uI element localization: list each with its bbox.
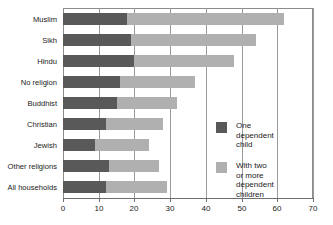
bar-segment-one-dependent-child	[63, 139, 95, 151]
bar-segment-one-dependent-child	[63, 118, 106, 130]
bar-segment-two-or-more-children	[109, 160, 159, 172]
category-axis-labels: MuslimSikhHinduNo religionBuddhistChrist…	[0, 8, 60, 198]
category-label-christian: Christian	[0, 120, 57, 129]
x-tick-label-60: 60	[273, 204, 282, 213]
category-label-no-religion: No religion	[0, 78, 57, 87]
x-tick-label-10: 10	[95, 204, 104, 213]
bar-row-muslim	[63, 13, 313, 25]
legend-swatch-icon	[216, 122, 227, 133]
x-tick-label-70: 70	[309, 204, 318, 213]
category-label-buddhist: Buddhist	[0, 99, 57, 108]
category-label-hindu: Hindu	[0, 57, 57, 66]
category-label-muslim: Muslim	[0, 15, 57, 24]
x-tick-0	[63, 198, 64, 202]
bar-row-all-households	[63, 181, 313, 193]
bar-segment-two-or-more-children	[127, 13, 284, 25]
bar-row-other-religions	[63, 160, 313, 172]
category-label-other-religions: Other religions	[0, 162, 57, 171]
category-label-jewish: Jewish	[0, 141, 57, 150]
bar-row-jewish	[63, 139, 313, 151]
bar-row-no-religion	[63, 76, 313, 88]
bar-row-hindu	[63, 55, 313, 67]
bar-row-christian	[63, 118, 313, 130]
x-tick-40	[206, 198, 207, 202]
bar-segment-one-dependent-child	[63, 160, 109, 172]
bar-segment-one-dependent-child	[63, 34, 131, 46]
bar-segment-one-dependent-child	[63, 181, 106, 193]
plot-area: 010203040506070	[63, 8, 313, 198]
x-tick-label-20: 20	[130, 204, 139, 213]
legend-swatch-icon	[216, 162, 227, 173]
x-tick-60	[277, 198, 278, 202]
bar-segment-two-or-more-children	[117, 97, 178, 109]
x-tick-30	[170, 198, 171, 202]
x-tick-20	[134, 198, 135, 202]
bar-segment-two-or-more-children	[134, 55, 234, 67]
bar-row-sikh	[63, 34, 313, 46]
bar-segment-two-or-more-children	[95, 139, 149, 151]
legend-label: With two or more dependent children	[236, 161, 274, 199]
bar-segment-two-or-more-children	[106, 118, 163, 130]
bar-segment-two-or-more-children	[131, 34, 256, 46]
gridline-70	[313, 8, 314, 198]
bar-segment-two-or-more-children	[106, 181, 167, 193]
category-label-sikh: Sikh	[0, 36, 57, 45]
bar-segment-one-dependent-child	[63, 76, 120, 88]
bar-segment-one-dependent-child	[63, 13, 127, 25]
category-label-all-households: All households	[0, 183, 57, 192]
bar-chart: MuslimSikhHinduNo religionBuddhistChrist…	[0, 0, 333, 225]
bar-segment-one-dependent-child	[63, 97, 117, 109]
x-tick-label-40: 40	[202, 204, 211, 213]
x-tick-label-0: 0	[61, 204, 65, 213]
bar-segment-one-dependent-child	[63, 55, 134, 67]
x-tick-label-50: 50	[238, 204, 247, 213]
x-tick-10	[99, 198, 100, 202]
x-tick-70	[313, 198, 314, 202]
x-tick-label-30: 30	[166, 204, 175, 213]
bar-segment-two-or-more-children	[120, 76, 195, 88]
legend-label: One dependent child	[236, 121, 274, 150]
bar-row-buddhist	[63, 97, 313, 109]
